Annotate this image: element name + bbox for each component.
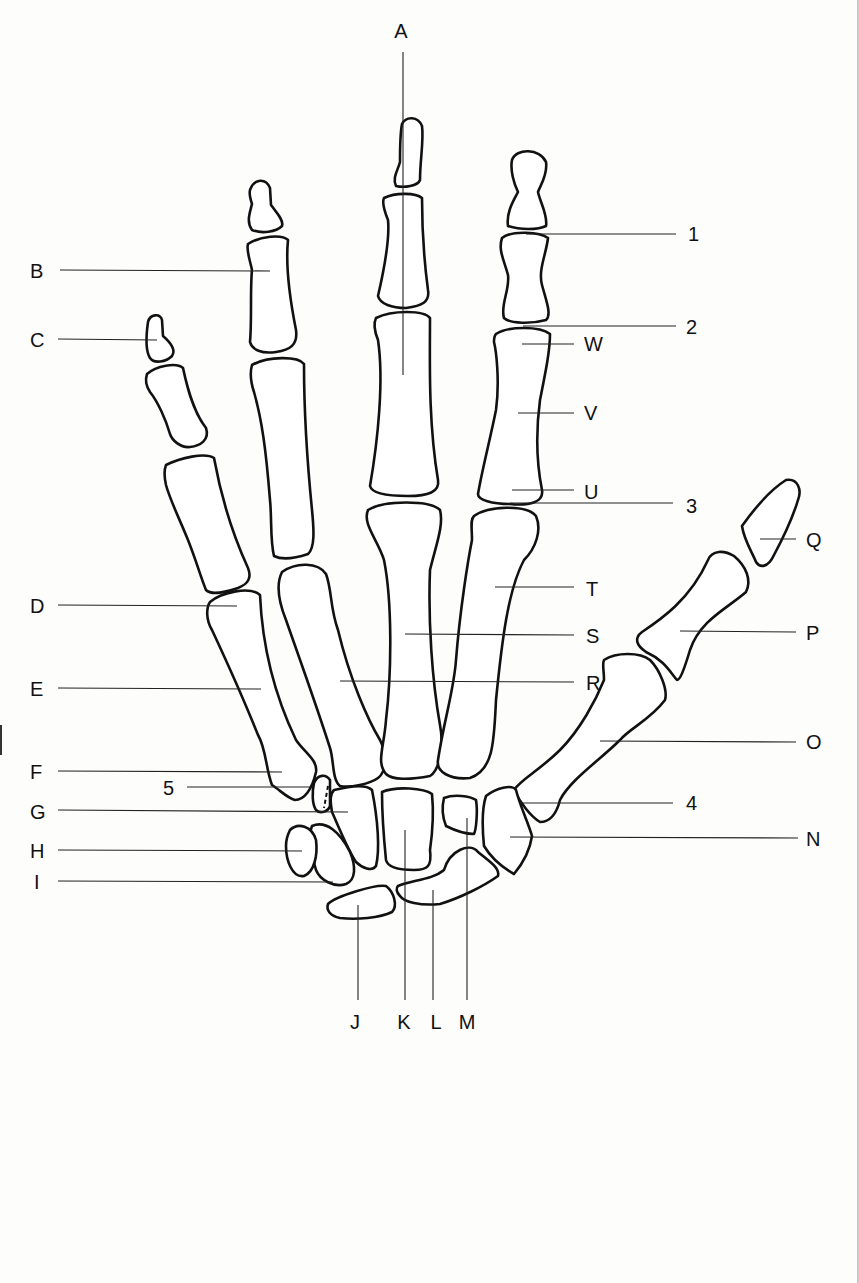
carpal-bones (286, 776, 532, 919)
label-1: 1 (688, 223, 699, 245)
label-T: T (586, 578, 598, 600)
index-distal-phalanx (508, 151, 547, 229)
page-edge-mark (0, 725, 2, 755)
label-Q: Q (806, 529, 822, 551)
middle-finger (367, 118, 442, 779)
thumb-proximal-phalanx (637, 552, 748, 680)
label-4: 4 (686, 792, 697, 814)
trapezoid (443, 796, 477, 834)
label-L: L (430, 1011, 441, 1033)
leader-line-C (58, 339, 157, 340)
label-V: V (584, 402, 598, 424)
leader-line-H (58, 850, 302, 851)
leader-line-B (60, 270, 270, 271)
hand-skeleton-diagram: A B C D E F 5 G H I J K L M N 4 O P Q R … (0, 0, 859, 1283)
little-proximal-phalanx (165, 456, 250, 594)
thumb (514, 480, 800, 822)
label-G: G (30, 801, 46, 823)
bone-drawing: A B C D E F 5 G H I J K L M N 4 O P Q R … (0, 0, 859, 1283)
ulnar-carpal (328, 886, 395, 919)
leader-line-G (58, 810, 348, 812)
index-finger (438, 151, 550, 778)
label-W: W (584, 333, 603, 355)
label-2: 2 (686, 316, 697, 338)
ring-middle-phalanx (247, 237, 296, 353)
label-U: U (584, 481, 598, 503)
leader-line-N (510, 837, 798, 838)
index-middle-phalanx (501, 233, 549, 323)
label-P: P (806, 622, 819, 644)
label-3: 3 (686, 495, 697, 517)
little-distal-phalanx (146, 315, 173, 361)
label-K: K (397, 1011, 411, 1033)
label-D: D (30, 595, 44, 617)
little-middle-phalanx (146, 365, 207, 447)
leader-line-O (600, 741, 796, 742)
label-M: M (459, 1011, 476, 1033)
ring-proximal-phalanx (251, 358, 314, 558)
label-B: B (30, 260, 43, 282)
label-C: C (30, 329, 44, 351)
leader-line-F (58, 771, 282, 772)
label-J: J (350, 1011, 360, 1033)
label-H: H (30, 840, 44, 862)
label-E: E (30, 678, 43, 700)
capitate (382, 788, 433, 870)
label-S: S (586, 625, 599, 647)
label-O: O (806, 731, 822, 753)
index-metacarpal (438, 508, 539, 779)
index-proximal-phalanx (478, 328, 550, 504)
label-A: A (394, 20, 408, 42)
label-I: I (34, 871, 40, 893)
middle-distal-phalanx (395, 118, 423, 187)
thumb-distal-phalanx (742, 480, 800, 566)
label-R: R (586, 672, 600, 694)
label-F: F (30, 761, 42, 783)
ring-distal-phalanx (249, 181, 282, 232)
leader-line-R (340, 681, 574, 682)
label-N: N (806, 828, 820, 850)
middle-proximal-phalanx (370, 312, 438, 496)
leader-line-E (58, 688, 261, 689)
leader-line-I (58, 881, 333, 882)
label-5: 5 (163, 777, 174, 799)
